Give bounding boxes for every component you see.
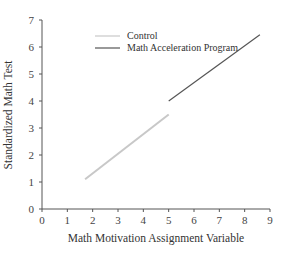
legend: Control Math Acceleration Program [95, 30, 238, 53]
y-tick-label: 1 [29, 176, 35, 188]
legend-label-math-acceleration-program: Math Acceleration Program [127, 42, 238, 53]
y-axis-title: Standardized Math Test [2, 60, 14, 170]
x-tick-label: 2 [90, 214, 96, 226]
x-tick-label: 1 [65, 214, 71, 226]
x-tick-label: 7 [217, 214, 223, 226]
chart: 01234567 0123456789 Control Math Acceler… [0, 0, 287, 256]
series-lines [85, 35, 260, 180]
y-tick-label: 4 [29, 95, 35, 107]
y-tick-label: 6 [29, 41, 35, 53]
x-tick-label: 6 [191, 214, 197, 226]
legend-label-control: Control [127, 30, 158, 41]
series-line-control [85, 115, 169, 180]
y-ticks: 01234567 [29, 14, 43, 215]
y-tick-label: 0 [29, 203, 35, 215]
x-tick-label: 5 [166, 214, 172, 226]
x-axis-title: Math Motivation Assignment Variable [68, 232, 244, 245]
x-ticks: 0123456789 [39, 209, 273, 226]
y-tick-label: 3 [29, 122, 35, 134]
y-tick-label: 2 [29, 149, 35, 161]
x-tick-label: 3 [115, 214, 121, 226]
x-tick-label: 4 [141, 214, 147, 226]
x-tick-label: 0 [39, 214, 45, 226]
x-tick-label: 9 [267, 214, 273, 226]
y-tick-label: 7 [29, 14, 35, 26]
x-tick-label: 8 [242, 214, 248, 226]
y-tick-label: 5 [29, 68, 35, 80]
